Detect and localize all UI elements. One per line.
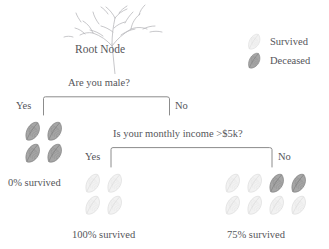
leaf-node-group-zero-survived [22,120,66,164]
legend-label-survived: Survived [270,36,308,47]
leaf-icon-deceased [44,120,66,142]
root-node-label: Root Node [75,44,125,56]
leaf-icon-survived [288,194,310,216]
question-label-gender: Are you male? [68,78,130,89]
leaf-icon-survived [82,194,104,216]
edge-label-income-yes: Yes [85,152,100,163]
leaf-icon-survived [266,194,288,216]
decision-tree-diagram: Root Node Are you male? Is your monthly … [0,0,329,249]
legend: Survived Deceased [246,32,310,70]
leaf-icon-survived [104,194,126,216]
outcome-label-zero-survived: 0% survived [8,178,61,189]
outcome-label-all-survived: 100% survived [72,230,135,241]
leaf-icon-survived [222,172,244,194]
question-label-income: Is your monthly income >$5k? [113,129,243,140]
leaf-icon-survived [104,172,126,194]
bare-tree-sketch-icon [55,2,175,74]
leaf-icon-deceased [246,51,263,70]
leaf-icon-survived [222,194,244,216]
leaf-node-group-most-survived [222,172,310,216]
legend-item-survived: Survived [246,32,310,51]
leaf-icon-deceased [288,172,310,194]
leaf-icon-deceased [22,142,44,164]
leaf-icon-survived [244,172,266,194]
leaf-icon-deceased [266,172,288,194]
leaf-node-group-all-survived [82,172,126,216]
outcome-label-most-survived: 75% survived [227,230,285,241]
legend-item-deceased: Deceased [246,51,310,70]
edge-label-gender-yes: Yes [16,101,31,112]
leaf-icon-deceased [44,142,66,164]
leaf-icon-survived [82,172,104,194]
leaf-icon-survived [246,32,263,51]
edge-label-gender-no: No [175,101,188,112]
leaf-icon-deceased [22,120,44,142]
edge-label-income-no: No [278,152,291,163]
legend-label-deceased: Deceased [270,55,310,66]
leaf-icon-survived [244,194,266,216]
